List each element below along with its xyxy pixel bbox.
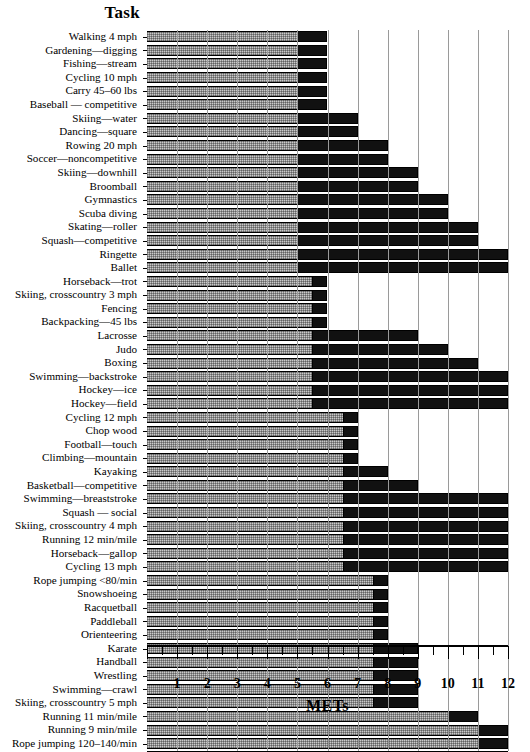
x-tick-label: 10 (433, 676, 463, 692)
task-label: Rope jumping <80/min (0, 574, 141, 588)
gridline (237, 30, 238, 751)
x-tick-major (297, 646, 298, 659)
x-tick-label: 8 (373, 676, 403, 692)
x-tick-label: 5 (282, 676, 312, 692)
task-label: Boxing (0, 356, 141, 370)
x-tick-minor (403, 646, 404, 655)
x-tick-major (508, 646, 509, 659)
gridline (388, 30, 389, 751)
task-label: Basketball—competitive (0, 479, 141, 493)
x-tick-minor (463, 646, 464, 655)
task-label: Kayaking (0, 465, 141, 479)
task-label: Running 11 min/mile (0, 710, 141, 724)
x-tick-label: 3 (222, 676, 252, 692)
task-label: Handball (0, 655, 141, 669)
gridline (448, 30, 449, 751)
gridline (207, 30, 208, 751)
task-label: Climbing—mountain (0, 451, 141, 465)
task-label: Swimming—backstroke (0, 370, 141, 384)
task-label: Backpacking—45 lbs (0, 315, 141, 329)
task-label: Hockey—field (0, 397, 141, 411)
task-label: Gymnastics (0, 193, 141, 207)
task-label: Karate (0, 642, 141, 656)
x-tick-major (237, 646, 238, 659)
gridline (508, 30, 509, 751)
x-axis-title: METs (147, 697, 508, 715)
x-tick-minor (493, 646, 494, 655)
x-tick-minor (192, 646, 193, 655)
task-label: Walking 4 mph (0, 30, 141, 44)
gridline (328, 30, 329, 751)
x-tick-label: 11 (463, 676, 493, 692)
x-tick-minor (252, 646, 253, 655)
x-tick-major (388, 646, 389, 659)
x-tick-label: 6 (313, 676, 343, 692)
x-tick-label: 1 (162, 676, 192, 692)
task-label: Running 12 min/mile (0, 533, 141, 547)
task-label: Hockey—ice (0, 383, 141, 397)
task-label: Ringette (0, 248, 141, 262)
task-label: Dancing—square (0, 125, 141, 139)
x-tick-major (328, 646, 329, 659)
x-tick-minor (312, 646, 313, 655)
x-tick-major (478, 646, 479, 659)
task-label: Chop wood (0, 424, 141, 438)
gridline (478, 30, 479, 751)
task-label: Horseback—trot (0, 275, 141, 289)
x-tick-label: 4 (252, 676, 282, 692)
x-tick-major (448, 646, 449, 659)
gridline (297, 30, 298, 751)
x-tick-minor (433, 646, 434, 655)
task-label: Fishing—stream (0, 57, 141, 71)
task-label: Paddleball (0, 615, 141, 629)
task-label: Cycling 10 mph (0, 71, 141, 85)
x-tick-major (267, 646, 268, 659)
task-label: Orienteering (0, 628, 141, 642)
x-tick-minor (162, 646, 163, 655)
x-tick-minor (373, 646, 374, 655)
task-label: Wrestling (0, 669, 141, 683)
x-tick-label: 12 (493, 676, 523, 692)
task-label: Squash—competitive (0, 234, 141, 248)
task-label: Skating—roller (0, 220, 141, 234)
task-label: Rope jumping 120–140/min (0, 737, 141, 751)
gridlines (147, 30, 508, 751)
task-label: Fencing (0, 302, 141, 316)
x-tick-minor (222, 646, 223, 655)
x-tick-minor (343, 646, 344, 655)
x-tick-major (418, 646, 419, 659)
task-label: Swimming—crawl (0, 683, 141, 697)
task-label: Judo (0, 343, 141, 357)
task-label: Soccer—noncompetitive (0, 152, 141, 166)
task-label: Racquetball (0, 601, 141, 615)
task-label: Skiing, crosscountry 3 mph (0, 288, 141, 302)
task-label-column: Walking 4 mphGardening—diggingFishing—st… (0, 30, 141, 750)
x-tick-major (177, 646, 178, 659)
x-tick-label: 2 (192, 676, 222, 692)
task-label: Skiing, crosscountry 4 mph (0, 519, 141, 533)
task-label: Ballet (0, 261, 141, 275)
task-column-header: Task (0, 3, 140, 23)
task-label: Swimming—breaststroke (0, 492, 141, 506)
task-label: Running 9 min/mile (0, 723, 141, 737)
x-tick-major (358, 646, 359, 659)
task-label: Skiing, crosscountry 5 mph (0, 696, 141, 710)
task-label: Football—touch (0, 438, 141, 452)
gridline (418, 30, 419, 751)
task-label: Broomball (0, 180, 141, 194)
x-tick-major (147, 646, 148, 659)
task-label: Skiing—water (0, 112, 141, 126)
task-label: Cycling 12 mph (0, 411, 141, 425)
x-tick-label: 9 (403, 676, 433, 692)
task-label: Snowshoeing (0, 587, 141, 601)
task-label: Carry 45–60 lbs (0, 84, 141, 98)
task-label: Lacrosse (0, 329, 141, 343)
plot-area (147, 30, 508, 645)
task-label: Rowing 20 mph (0, 139, 141, 153)
task-label: Cycling 13 mph (0, 560, 141, 574)
task-label: Horseback—gallop (0, 547, 141, 561)
x-tick-major (207, 646, 208, 659)
task-label: Squash — social (0, 506, 141, 520)
task-label: Scuba diving (0, 207, 141, 221)
